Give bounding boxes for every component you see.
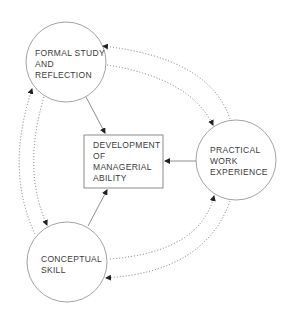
- label-line: PRACTICAL: [210, 145, 268, 156]
- label-line: FORMAL STUDY: [35, 48, 105, 59]
- dotted-formal-to-practical: [107, 65, 213, 125]
- dotted-formal-to-conceptual: [34, 97, 47, 225]
- dotted-practical-to-conceptual: [106, 201, 230, 278]
- label-line: EXPERIENCE: [210, 167, 268, 178]
- label-line: SKILL: [41, 265, 102, 276]
- label-line: REFLECTION: [35, 70, 105, 81]
- conceptual-skill-label: CONCEPTUAL SKILL: [41, 254, 102, 276]
- label-line: DEVELOPMENT: [93, 140, 161, 151]
- label-line: CONCEPTUAL: [41, 254, 102, 265]
- arrow-formal-to-development: [86, 97, 105, 133]
- label-line: AND: [35, 59, 105, 70]
- label-line: WORK: [210, 156, 268, 167]
- dotted-practical-to-formal: [103, 46, 230, 119]
- dotted-conceptual-to-practical: [110, 196, 214, 259]
- formal-study-label: FORMAL STUDY AND REFLECTION: [35, 48, 105, 81]
- label-line: ABILITY: [93, 173, 161, 184]
- label-line: OF: [93, 151, 161, 162]
- label-line: MANAGERIAL: [93, 162, 161, 173]
- arrow-conceptual-to-development: [88, 190, 107, 226]
- practical-work-label: PRACTICAL WORK EXPERIENCE: [210, 145, 268, 178]
- development-label: DEVELOPMENT OF MANAGERIAL ABILITY: [93, 140, 161, 184]
- dotted-conceptual-to-formal: [19, 89, 35, 234]
